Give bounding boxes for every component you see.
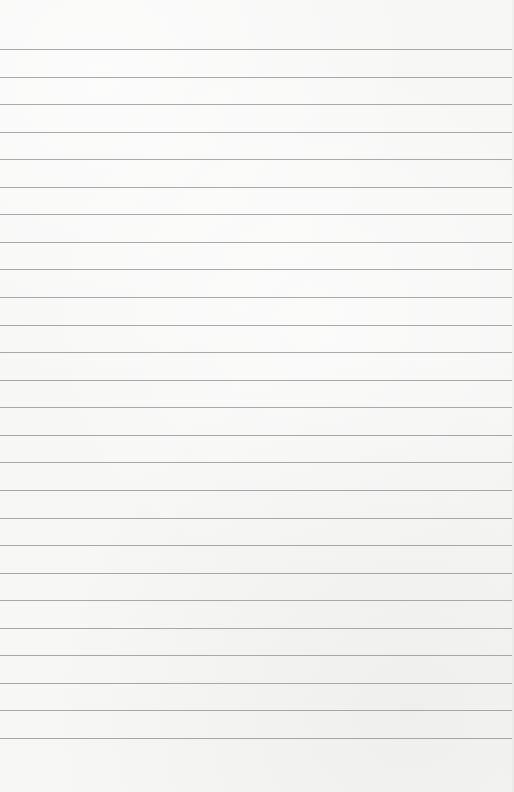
ruled-line: [0, 104, 512, 105]
ruled-line: [0, 738, 512, 739]
ruled-line: [0, 49, 512, 50]
ruled-line: [0, 407, 512, 408]
ruled-line: [0, 132, 512, 133]
ruled-line: [0, 352, 512, 353]
ruled-line: [0, 573, 512, 574]
ruled-line: [0, 628, 512, 629]
ruled-line: [0, 297, 512, 298]
ruled-line: [0, 435, 512, 436]
ruled-line: [0, 269, 512, 270]
ruled-line: [0, 600, 512, 601]
ruled-line: [0, 655, 512, 656]
ruled-line: [0, 683, 512, 684]
ruled-line: [0, 242, 512, 243]
ruled-line: [0, 187, 512, 188]
ruled-line: [0, 710, 512, 711]
ruled-line: [0, 214, 512, 215]
ruled-line: [0, 77, 512, 78]
lined-paper-sheet: [0, 0, 514, 792]
ruled-line: [0, 545, 512, 546]
ruled-line: [0, 518, 512, 519]
ruled-line: [0, 325, 512, 326]
ruled-line: [0, 462, 512, 463]
ruled-line: [0, 490, 512, 491]
ruled-line: [0, 159, 512, 160]
ruled-line: [0, 380, 512, 381]
